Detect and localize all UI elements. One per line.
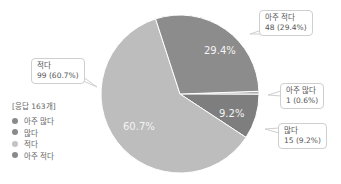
legend-dot-icon [12, 118, 18, 124]
legend-item[interactable]: 아주 많다 [12, 115, 56, 127]
legend-dot-icon [12, 141, 18, 147]
callout-value: 99 (60.7%) [37, 71, 79, 81]
slice-label-few: 60.7% [123, 121, 155, 132]
legend-label: 적다 [24, 138, 38, 149]
slice-label-very-few: 29.4% [204, 45, 236, 56]
callout-pointer [265, 128, 279, 133]
legend-label: 아주 적다 [24, 150, 54, 161]
legend-item[interactable]: 적다 [12, 138, 56, 150]
callout-very-many: 아주 많다 1 (0.6%) [280, 83, 324, 109]
legend-dot-icon [12, 152, 18, 158]
legend-item[interactable]: 아주 적다 [12, 150, 56, 162]
callout-value: 15 (9.2%) [284, 136, 321, 146]
legend: [응답 163개] 아주 많다 많다 적다 아주 적다 [12, 100, 56, 161]
legend-label: 많다 [24, 127, 38, 138]
legend-item[interactable]: 많다 [12, 127, 56, 139]
slice-label-many: 9.2% [219, 108, 244, 119]
callout-many: 많다 15 (9.2%) [278, 123, 327, 149]
callout-label: 아주 많다 [286, 86, 318, 96]
callout-value: 48 (29.4%) [265, 23, 307, 33]
legend-title: [응답 163개] [12, 100, 56, 111]
callout-label: 많다 [284, 126, 321, 136]
legend-dot-icon [12, 129, 18, 135]
callout-few: 적다 99 (60.7%) [31, 58, 85, 84]
callout-label: 적다 [37, 61, 79, 71]
legend-label: 아주 많다 [24, 115, 54, 126]
callout-value: 1 (0.6%) [286, 96, 318, 106]
callout-label: 아주 적다 [265, 13, 307, 23]
callout-very-few: 아주 적다 48 (29.4%) [259, 10, 313, 36]
